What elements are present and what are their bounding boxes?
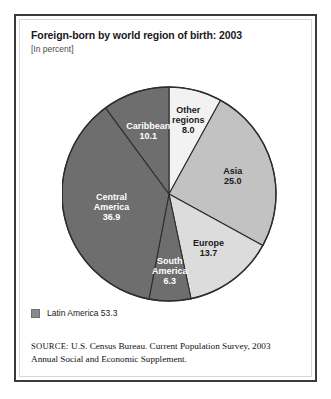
figure-inner-border: Foreign-born by world region of birth: 2… <box>19 19 312 377</box>
legend: Latin America 53.3 <box>31 308 117 318</box>
pie-chart-svg: Otherregions8.0Asia25.0Europe13.7SouthAm… <box>62 81 277 311</box>
source-label: SOURCE: <box>31 341 69 351</box>
legend-label-latin-america: Latin America 53.3 <box>47 308 117 318</box>
source-note: SOURCE: U.S. Census Bureau. Current Popu… <box>31 340 299 365</box>
figure-frame: Foreign-born by world region of birth: 2… <box>14 14 317 382</box>
page-title: Foreign-born by world region of birth: 2… <box>31 29 242 41</box>
chart-subtitle: [In percent] <box>31 44 74 54</box>
pie-chart: Otherregions8.0Asia25.0Europe13.7SouthAm… <box>62 81 277 311</box>
legend-swatch-latin-america <box>31 309 40 318</box>
pie-label-asia: Asia25.0 <box>223 166 243 186</box>
